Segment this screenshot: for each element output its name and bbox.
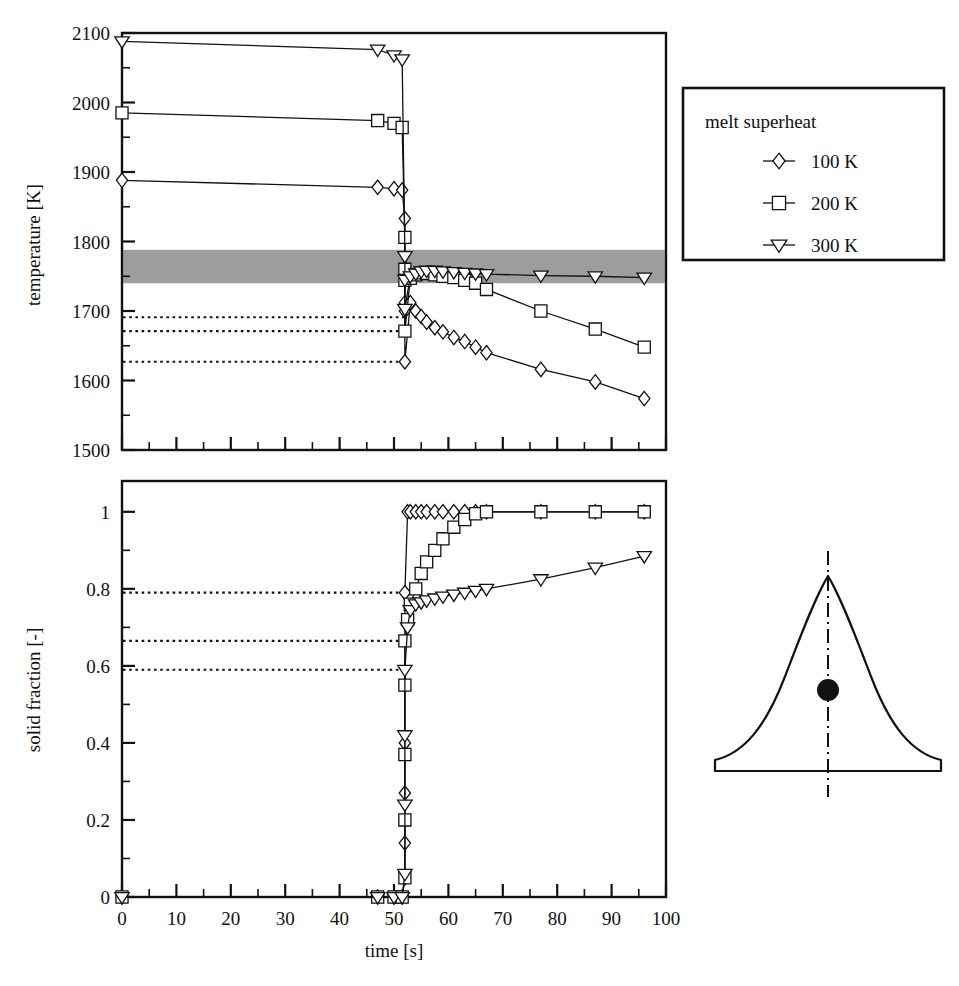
- y-tick-label: 1: [101, 502, 111, 523]
- square-marker-point: [415, 567, 427, 579]
- y-tick-label: 1800: [72, 232, 110, 253]
- diamond-marker-point: [470, 340, 481, 354]
- legend-entry-label: 100 K: [811, 151, 858, 172]
- series-polyline: [122, 512, 644, 897]
- diamond-marker-point: [459, 334, 470, 348]
- x-tick-label: 70: [493, 908, 512, 929]
- series-polyline: [122, 512, 644, 897]
- square-marker-point: [535, 506, 547, 518]
- y-tick-label: 0: [101, 887, 111, 908]
- triangle-down-marker-point: [398, 800, 412, 811]
- x-tick-label: 80: [548, 908, 567, 929]
- square-marker-point: [421, 556, 433, 568]
- y-axis-solid-fraction-vs-time: 00.20.40.60.81: [86, 502, 135, 908]
- y-tick-label: 0.8: [86, 579, 110, 600]
- square-marker-point: [372, 115, 384, 127]
- figure-root: 150016001700180019002000210000.20.40.60.…: [0, 0, 959, 986]
- x-tick-label: 0: [117, 908, 127, 929]
- temperature-axis-title: temperature [K]: [23, 184, 44, 306]
- diamond-marker-point: [448, 505, 459, 519]
- triangle-down-marker-point: [115, 37, 129, 48]
- triangle-down-marker-point: [398, 731, 412, 742]
- diamond-marker-point: [372, 180, 383, 194]
- square-marker-point: [589, 506, 601, 518]
- legend-entry-label: 200 K: [811, 193, 858, 214]
- square-marker-point: [638, 506, 650, 518]
- square-marker-point: [399, 325, 411, 337]
- square-marker-point: [396, 121, 408, 133]
- x-tick-label: 50: [385, 908, 404, 929]
- diamond-marker-point: [448, 330, 459, 344]
- square-marker-point: [535, 305, 547, 317]
- x-tick-label: 40: [330, 908, 349, 929]
- series-polyline: [122, 180, 644, 398]
- y-tick-label: 2100: [72, 23, 110, 44]
- series-group-solid-fraction-vs-time: [115, 505, 652, 905]
- x-tick-label: 20: [221, 908, 240, 929]
- square-marker-point: [399, 635, 411, 647]
- diamond-marker-point: [399, 355, 410, 369]
- plot-frame-temperature-vs-time: [122, 33, 666, 450]
- legend-entry-2[interactable]: 200 K: [763, 193, 858, 214]
- series-200-K: [116, 506, 650, 903]
- plot-panel-solid-fraction-vs-time: 00.20.40.60.810102030405060708090100: [86, 481, 680, 929]
- square-marker-point: [116, 107, 128, 119]
- diamond-marker-point: [481, 346, 492, 360]
- square-marker: [772, 196, 785, 209]
- plot-panel-temperature-vs-time: 1500160017001800190020002100: [72, 23, 666, 461]
- y-tick-label: 1900: [72, 162, 110, 183]
- scientific-figure: 150016001700180019002000210000.20.40.60.…: [0, 0, 959, 986]
- plot-frame-solid-fraction-vs-time: [122, 481, 666, 897]
- series-100-K: [116, 505, 649, 905]
- legend-title: melt superheat: [705, 111, 817, 132]
- series-100-K: [116, 173, 649, 406]
- diamond-marker-point: [437, 505, 448, 519]
- solid-fraction-axis-title: solid fraction [-]: [23, 628, 44, 753]
- annotations-solid-fraction-vs-time: [123, 593, 405, 670]
- legend-entry-3[interactable]: 300 K: [763, 235, 858, 256]
- y-axis-temperature-vs-time: 1500160017001800190020002100: [72, 23, 135, 461]
- diamond-marker-point: [535, 362, 546, 376]
- diamond-marker-point: [590, 375, 601, 389]
- thermocouple-location-dot: [817, 679, 839, 701]
- diamond-marker-point: [639, 391, 650, 405]
- y-tick-label: 1500: [72, 440, 110, 461]
- x-tick-label: 30: [276, 908, 295, 929]
- triangle-down-marker-point: [395, 55, 409, 66]
- legend-box: melt superheat100 K200 K300 K: [683, 88, 944, 260]
- x-tick-label: 10: [167, 908, 186, 929]
- x-tick-label: 60: [439, 908, 458, 929]
- series-300-K: [115, 552, 652, 904]
- square-marker-point: [429, 544, 441, 556]
- square-marker-point: [480, 506, 492, 518]
- y-tick-label: 2000: [72, 93, 110, 114]
- series-polyline: [122, 556, 644, 897]
- legend-entry-1[interactable]: 100 K: [763, 151, 858, 172]
- y-tick-label: 1600: [72, 371, 110, 392]
- square-marker-point: [437, 533, 449, 545]
- legend-entry-label: 300 K: [811, 235, 858, 256]
- time-axis-title: time [s]: [365, 940, 424, 961]
- x-axis-temperature-vs-time: [122, 437, 666, 450]
- inset-sketch: [715, 551, 941, 797]
- y-tick-label: 0.4: [86, 733, 110, 754]
- triangle-down-marker: [771, 240, 787, 252]
- triangle-down-marker-point: [400, 623, 414, 634]
- triangle-down-marker-point: [398, 665, 412, 676]
- y-tick-label: 0.6: [86, 656, 110, 677]
- diamond-marker: [773, 153, 785, 169]
- series-group-temperature-vs-time: [115, 37, 652, 406]
- x-tick-label: 90: [602, 908, 621, 929]
- annotations-temperature-vs-time: [123, 317, 405, 361]
- y-tick-label: 0.2: [86, 810, 110, 831]
- square-marker-point: [638, 341, 650, 353]
- y-tick-label: 1700: [72, 301, 110, 322]
- solidification-interval-band: [123, 250, 665, 283]
- square-marker-point: [410, 583, 422, 595]
- series-polyline: [122, 113, 644, 347]
- square-marker-point: [480, 283, 492, 295]
- series-200-K: [116, 107, 650, 353]
- square-marker-point: [589, 323, 601, 335]
- diamond-marker-point: [116, 173, 127, 187]
- x-tick-label: 100: [652, 908, 681, 929]
